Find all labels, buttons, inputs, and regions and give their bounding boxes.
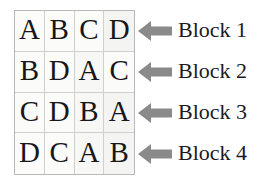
grid-cell: C [75, 11, 105, 52]
grid-cell: A [15, 11, 45, 52]
grid-cell: D [15, 133, 45, 174]
grid-cell: B [104, 133, 134, 174]
block-label: Block 2 [178, 60, 247, 82]
grid-cell: B [45, 11, 75, 52]
grid-cell: A [75, 52, 105, 93]
cell-letter: A [19, 15, 40, 44]
cell-letter: D [19, 138, 40, 167]
block-annotation: Block 1 [138, 10, 263, 51]
cell-letter: A [78, 56, 99, 85]
cell-letter: B [79, 97, 98, 126]
block-label: Block 4 [178, 142, 247, 164]
cell-letter: C [49, 138, 68, 167]
cell-letter: B [20, 56, 39, 85]
grid-cell: C [45, 133, 75, 174]
cell-letter: A [109, 97, 130, 126]
cell-letter: D [49, 97, 70, 126]
grid-cell: C [104, 52, 134, 93]
arrow-left-icon [138, 143, 172, 165]
grid-cell: D [45, 93, 75, 134]
cell-letter: C [20, 97, 39, 126]
grid-cell: B [75, 93, 105, 134]
arrow-left-icon [138, 20, 172, 42]
arrow-left-icon [138, 61, 172, 83]
block-annotation: Block 2 [138, 51, 263, 92]
grid-cell: D [104, 11, 134, 52]
block-annotation: Block 3 [138, 92, 263, 133]
cell-letter: C [79, 15, 98, 44]
grid-cell: B [15, 52, 45, 93]
cell-letter: D [109, 15, 130, 44]
cell-letter: A [78, 138, 99, 167]
grid-cell: A [104, 93, 134, 134]
grid-cell: A [75, 133, 105, 174]
arrow-left-icon [138, 102, 172, 124]
block-annotation: Block 4 [138, 133, 263, 174]
block-label: Block 3 [178, 101, 247, 123]
latin-square-block-diagram: A B C D B D A C C D B [0, 0, 263, 181]
grid-cell: D [45, 52, 75, 93]
cell-letter: B [49, 15, 68, 44]
letter-grid: A B C D B D A C C D B [14, 10, 135, 175]
cell-letter: D [49, 56, 70, 85]
cell-letter: C [109, 56, 128, 85]
grid-cell: C [15, 93, 45, 134]
block-label: Block 1 [178, 19, 247, 41]
cell-letter: B [109, 138, 128, 167]
